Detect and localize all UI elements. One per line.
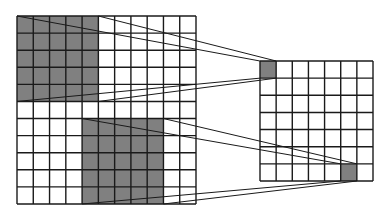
projection-line xyxy=(98,16,276,61)
highlighted-receptive-field xyxy=(82,119,163,204)
projection-line xyxy=(98,78,276,101)
receptive-field-diagram xyxy=(0,0,388,220)
highlighted-output-cell xyxy=(341,164,357,181)
highlighted-output-cell xyxy=(260,61,276,78)
output-feature-map-grid xyxy=(260,61,373,181)
projection-line xyxy=(163,181,356,204)
